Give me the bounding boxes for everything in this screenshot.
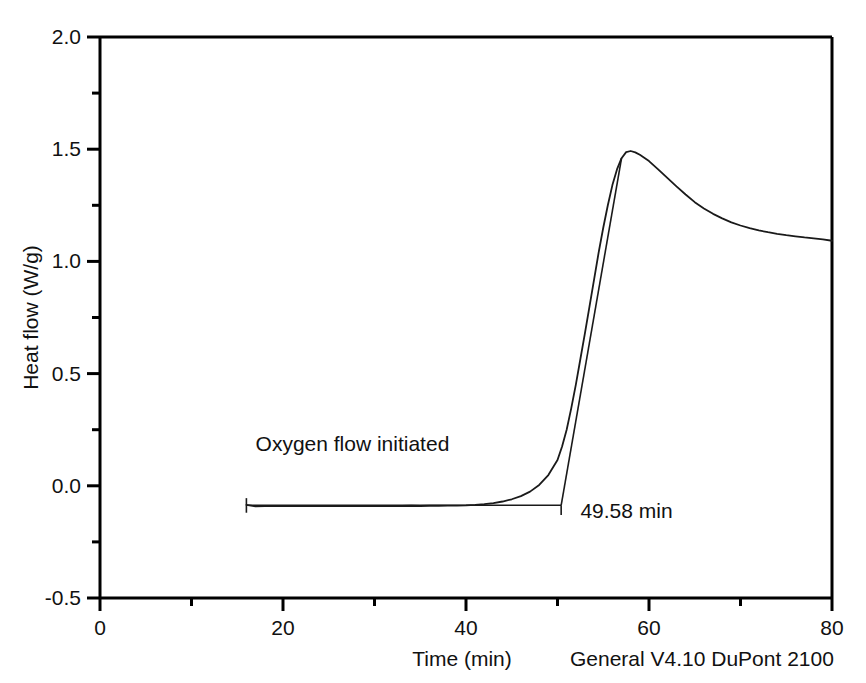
y-tick-label: 2.0 [52,25,81,48]
instrument-footer-text: General V4.10 DuPont 2100 [570,647,834,670]
x-tick-label: 80 [820,616,843,639]
tangent-extrapolation-line [561,158,621,505]
y-tick-label: -0.5 [45,586,81,609]
y-tick-label: 0.5 [52,362,81,385]
onset-time-annotation: 49.58 min [580,499,672,522]
heat-flow-vs-time-chart: -0.50.00.51.01.52.0020406080Time (min)He… [0,0,866,683]
x-tick-label: 20 [271,616,294,639]
oxygen-flow-annotation: Oxygen flow initiated [256,432,450,455]
x-tick-label: 0 [94,616,106,639]
y-tick-label: 1.5 [52,137,81,160]
y-tick-label: 1.0 [52,249,81,272]
y-axis-ticks: -0.50.00.51.01.52.0 [45,25,100,609]
dsc-oxidation-induction-figure: -0.50.00.51.01.52.0020406080Time (min)He… [0,0,866,683]
x-tick-label: 60 [637,616,660,639]
axes [100,37,832,598]
y-axis-title: Heat flow (W/g) [19,245,42,390]
x-axis-title: Time (min) [412,647,512,670]
x-tick-label: 40 [454,616,477,639]
x-axis-ticks: 020406080 [94,598,844,639]
y-tick-label: 0.0 [52,474,81,497]
